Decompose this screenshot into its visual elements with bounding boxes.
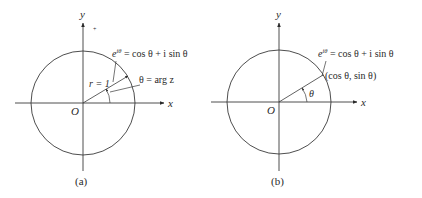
angle-leader-a xyxy=(110,85,140,92)
x-axis-label-b: x xyxy=(360,96,366,108)
origin-label-b: O xyxy=(267,104,275,116)
angle-label-a: θ = arg z xyxy=(139,74,175,85)
radius-b xyxy=(279,75,323,102)
y-axis-label-b: y xyxy=(275,8,281,20)
angle-arc-b xyxy=(302,88,307,102)
caption-a: (a) xyxy=(75,175,88,188)
euler-formula-b: eiθ = cos θ + i sin θ xyxy=(318,47,394,59)
angle-arc-a xyxy=(106,89,110,103)
formula-rest-b: = cos θ + i sin θ xyxy=(327,48,393,59)
unit-circle-figure: y x O r = 1 eiθ = cos θ + i sin θ θ = ar… xyxy=(0,0,422,198)
caption-b: (b) xyxy=(271,175,284,188)
panel-a: y x O r = 1 eiθ = cos θ + i sin θ θ = ar… xyxy=(15,8,188,188)
angle-label-b: θ xyxy=(309,88,314,99)
x-axis-label-a: x xyxy=(167,97,173,109)
euler-formula-a: eiθ = cos θ + i sin θ xyxy=(112,47,188,59)
formula-leader-a xyxy=(113,61,116,82)
scan-artifact: + xyxy=(93,26,97,32)
origin-label-a: O xyxy=(71,105,79,117)
y-axis-label-a: y xyxy=(79,8,85,20)
panel-b: y x O eiθ = cos θ + i sin θ (cos θ, sin … xyxy=(211,8,394,188)
formula-rest-a: = cos θ + i sin θ xyxy=(121,48,187,59)
radius-label-a: r = 1 xyxy=(89,78,110,89)
point-coordinates-b: (cos θ, sin θ) xyxy=(325,70,376,82)
